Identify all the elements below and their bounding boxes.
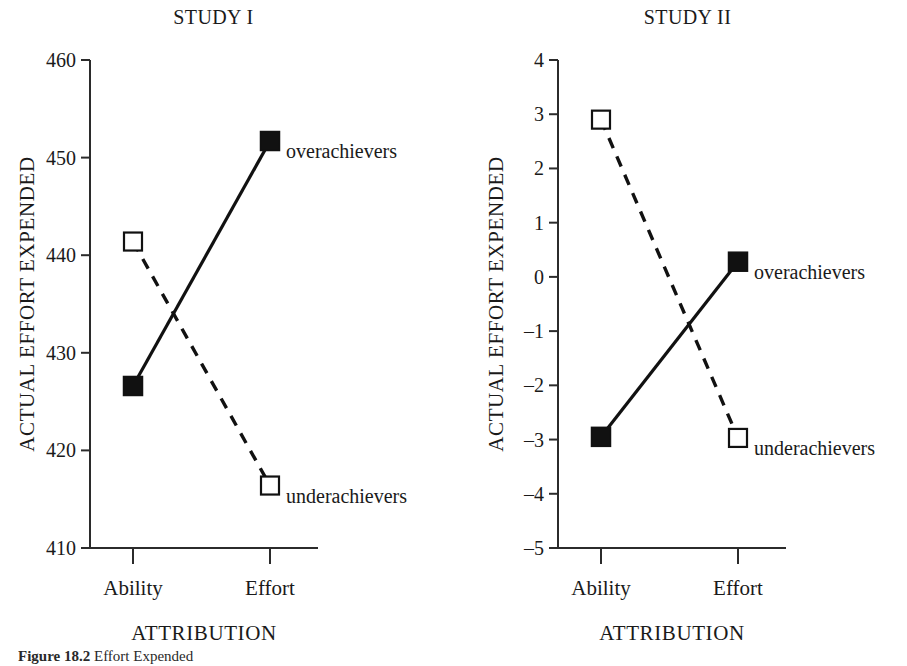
x-category-label-effort: Effort (713, 576, 763, 600)
data-point-underachievers (592, 111, 610, 129)
series-label-overachievers: overachievers (754, 261, 865, 283)
y-tick-label: –4 (523, 483, 544, 505)
axis-lines (558, 60, 786, 548)
y-tick-label: 3 (534, 103, 544, 125)
x-category-label-ability: Ability (571, 576, 631, 600)
panels-row: STUDY I 460450440430420410AbilityEffortA… (0, 0, 907, 640)
series-line-underachievers (601, 120, 738, 438)
y-tick-label: 4 (534, 49, 544, 71)
y-tick-label: 2 (534, 157, 544, 179)
y-tick-label: 460 (46, 49, 76, 71)
data-point-underachievers (261, 477, 279, 495)
figure-caption-text: Effort Expended (94, 648, 193, 664)
figure-caption-number: Figure 18.2 (18, 648, 90, 664)
axis-lines (90, 60, 318, 548)
series-line-overachievers (133, 141, 270, 386)
y-axis-title: ACTUAL EFFORT EXPENDED (15, 156, 39, 451)
plot-area-study1: 460450440430420410AbilityEffortACTUAL EF… (0, 0, 453, 640)
x-category-label-effort: Effort (245, 576, 295, 600)
series-line-underachievers (133, 242, 270, 486)
x-axis-title: ATTRIBUTION (131, 621, 276, 640)
y-tick-label: –3 (523, 429, 544, 451)
data-point-underachievers (729, 429, 747, 447)
y-tick-label: 440 (46, 244, 76, 266)
chart-panel-study1: STUDY I 460450440430420410AbilityEffortA… (0, 0, 453, 640)
chart-panel-study2: STUDY II 43210–1–2–3–4–5AbilityEffortACT… (453, 0, 906, 640)
series-line-overachievers (601, 262, 738, 437)
x-axis-title: ATTRIBUTION (599, 621, 744, 640)
y-tick-label: 0 (534, 266, 544, 288)
y-tick-label: 450 (46, 147, 76, 169)
x-category-label-ability: Ability (103, 576, 163, 600)
series-label-underachievers: underachievers (286, 485, 407, 507)
y-tick-label: 420 (46, 439, 76, 461)
y-tick-label: 410 (46, 537, 76, 559)
data-point-overachievers (124, 376, 143, 395)
data-point-overachievers (592, 427, 611, 446)
data-point-overachievers (729, 252, 748, 271)
y-tick-label: 1 (534, 212, 544, 234)
data-point-overachievers (261, 132, 280, 151)
y-tick-label: 430 (46, 342, 76, 364)
series-label-overachievers: overachievers (286, 140, 397, 162)
y-tick-label: –2 (523, 374, 544, 396)
figure-caption: Figure 18.2 Effort Expended (18, 647, 878, 666)
series-label-underachievers: underachievers (754, 437, 875, 459)
data-point-underachievers (124, 233, 142, 251)
plot-area-study2: 43210–1–2–3–4–5AbilityEffortACTUAL EFFOR… (453, 0, 906, 640)
y-axis-title: ACTUAL EFFORT EXPENDED (484, 156, 508, 451)
y-tick-label: –5 (523, 537, 544, 559)
y-tick-label: –1 (523, 320, 544, 342)
